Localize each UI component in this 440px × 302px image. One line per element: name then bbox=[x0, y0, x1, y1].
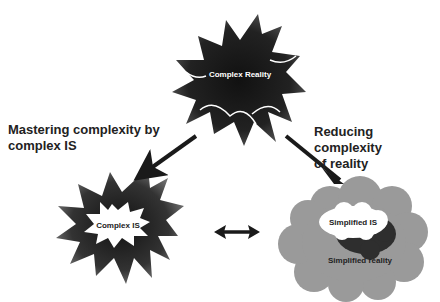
complex-reality-splat: Complex Reality bbox=[172, 14, 306, 146]
simplified-is-label: Simplified IS bbox=[329, 218, 378, 227]
edge-label-right-line1: Reducing complexity bbox=[314, 124, 440, 156]
complex-reality-label: Complex Reality bbox=[209, 70, 272, 79]
edge-label-right-line2: of reality bbox=[314, 156, 440, 172]
complex-is-label: Complex IS bbox=[96, 221, 140, 230]
edge-label-left: Mastering complexity by complex IS bbox=[8, 122, 160, 154]
edge-label-left-line2: complex IS bbox=[8, 138, 160, 154]
edge-label-right: Reducing complexity of reality bbox=[314, 124, 440, 172]
simplified-cloud: Simplified IS Simplified reality bbox=[278, 176, 428, 302]
simplified-reality-label: Simplified reality bbox=[328, 256, 393, 265]
edge-label-left-line1: Mastering complexity by bbox=[8, 122, 160, 138]
bidirectional-arrow bbox=[214, 225, 260, 239]
complex-is-splat: Complex IS bbox=[56, 168, 184, 284]
